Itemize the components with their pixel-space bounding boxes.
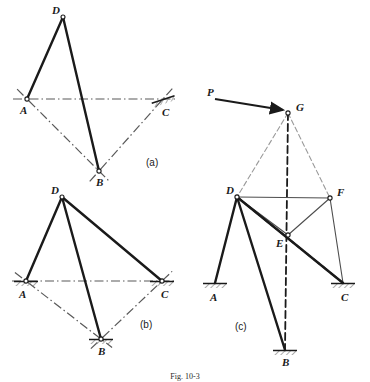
vertex-label-g: G: [296, 101, 304, 113]
joint-f: [328, 196, 332, 200]
joint-g: [286, 111, 290, 115]
member-dc: [62, 197, 162, 281]
construction-gd: [237, 113, 288, 197]
vertex-label-c: C: [162, 106, 170, 118]
vertex-label-b: B: [97, 345, 105, 357]
part-c-load: P: [207, 86, 283, 110]
vertex-label-a: A: [18, 288, 26, 300]
load-arrow-p: [215, 99, 283, 110]
joint-d: [61, 15, 65, 19]
part-b-members: [26, 197, 162, 339]
vertex-label-a: A: [209, 291, 217, 303]
part-a-members: [27, 17, 99, 171]
load-label-p: P: [207, 86, 214, 98]
vertex-label-c: C: [161, 288, 169, 300]
vertex-label-e: E: [275, 237, 283, 249]
pin-c: [160, 279, 164, 283]
vertex-label-f: F: [336, 186, 345, 198]
part-c-dashed-lines: [237, 113, 343, 350]
figure-caption-group: Fig. 10-3: [170, 372, 199, 381]
vertex-label-b: B: [95, 176, 103, 188]
part-a-pins: [25, 15, 101, 173]
member-df: [237, 197, 330, 198]
vertex-label-d: D: [225, 184, 234, 196]
vertex-label-d: D: [51, 4, 60, 16]
member-ad: [27, 17, 63, 99]
member-dc: [237, 197, 343, 283]
member-da: [215, 197, 237, 283]
axis-ab: [17, 89, 109, 181]
part-c-supports: [203, 283, 355, 355]
joint-e: [286, 233, 290, 237]
figure-container: ABCD ABCD P ABCDEFG (a)(b)(c) Fig. 10-3: [0, 0, 370, 382]
part-label-a: (a): [146, 157, 158, 168]
joint-d: [235, 195, 239, 199]
pin-b: [97, 169, 101, 173]
construction-gb: [285, 113, 288, 350]
part-c-group: P ABCDEFG: [203, 86, 355, 368]
pin-a: [25, 97, 29, 101]
part-label-b: (b): [140, 319, 152, 330]
vertex-label-d: D: [50, 184, 59, 196]
part-b-group: ABCD: [12, 184, 176, 357]
member-db: [62, 197, 101, 339]
joint-d: [60, 195, 64, 199]
member-ef: [288, 198, 330, 235]
member-db: [63, 17, 99, 171]
engineering-figure: ABCD ABCD P ABCDEFG (a)(b)(c) Fig. 10-3: [0, 0, 370, 382]
pin-a: [24, 279, 28, 283]
vertex-label-a: A: [19, 104, 27, 116]
member-fc: [330, 198, 343, 283]
construction-gf: [288, 113, 330, 198]
part-label-c: (c): [235, 321, 247, 332]
vertex-label-c: C: [341, 291, 349, 303]
member-ad: [26, 197, 62, 281]
pin-b: [99, 337, 103, 341]
figure-caption: Fig. 10-3: [170, 372, 199, 381]
vertex-label-b: B: [281, 356, 289, 368]
part-b-labels: ABCD: [18, 184, 169, 357]
part-c-joints: [235, 111, 332, 237]
